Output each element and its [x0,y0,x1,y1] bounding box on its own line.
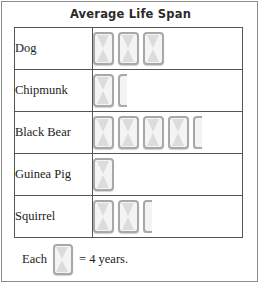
table-row: Guinea Pig [15,154,243,196]
row-label-chipmunk: Chipmunk [15,70,93,112]
row-symbols-guinea-pig [93,154,243,196]
hourglass-symbol [93,74,114,107]
hourglass-symbol [118,32,139,65]
symbol-group [93,197,242,237]
hourglass-symbol [143,116,164,149]
hourglass-symbol [118,116,139,149]
row-label-dog: Dog [15,28,93,70]
symbol-group [93,29,242,69]
table-row: Chipmunk [15,70,243,112]
row-label-guinea-pig: Guinea Pig [15,154,93,196]
page-title: Average Life Span [0,7,261,21]
pictograph-table: Dog Chipmunk [14,27,243,238]
symbol-group [93,71,242,111]
hourglass-symbol [93,116,114,149]
hourglass-symbol [93,32,114,65]
hourglass-symbol [53,244,73,275]
hourglass-symbol [93,200,114,233]
table-row: Squirrel [15,196,243,238]
legend-prefix: Each [22,252,47,267]
row-label-black-bear: Black Bear [15,112,93,154]
hourglass-symbol [118,200,139,233]
table-row: Black Bear [15,112,243,154]
hourglass-half-symbol [143,200,152,233]
symbol-group [93,155,242,195]
hourglass-symbol [93,158,114,191]
hourglass-symbol [168,116,189,149]
hourglass-symbol [143,32,164,65]
row-label-squirrel: Squirrel [15,196,93,238]
row-symbols-squirrel [93,196,243,238]
row-symbols-black-bear [93,112,243,154]
row-symbols-dog [93,28,243,70]
hourglass-half-symbol [193,116,202,149]
legend-equals: = 4 years. [79,252,128,267]
table-body: Dog Chipmunk [15,28,243,238]
hourglass-half-symbol [118,74,127,107]
row-symbols-chipmunk [93,70,243,112]
pictograph-page: Average Life Span Dog Chipmunk [0,0,261,285]
table-row: Dog [15,28,243,70]
symbol-group [93,113,242,153]
legend: Each = 4 years. [22,244,128,275]
